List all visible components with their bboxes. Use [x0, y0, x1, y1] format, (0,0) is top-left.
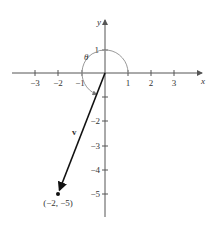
x-tick-label: 2 — [149, 78, 154, 88]
x-axis-label: x — [200, 76, 205, 86]
theta-label: θ — [84, 52, 89, 62]
x-tick-label: −2 — [53, 78, 63, 88]
x-tick-label: −3 — [30, 78, 40, 88]
y-axis-label: y — [96, 17, 101, 27]
endpoint-dot — [56, 192, 60, 196]
vector-label: v — [72, 127, 77, 137]
y-tick-label: −3 — [90, 141, 100, 151]
y-tick-label: −4 — [90, 165, 100, 175]
x-tick-label: 1 — [126, 78, 131, 88]
endpoint-label: (−2, −5) — [43, 198, 73, 208]
y-tick-label: 1 — [95, 45, 100, 55]
vector-diagram: −3 −2 −1 1 2 3 1 −2 −3 −4 −5 x y θ v (−2… — [0, 0, 217, 225]
y-tick-label: −2 — [90, 116, 100, 126]
x-tick-label: 3 — [172, 78, 177, 88]
y-tick-label: −5 — [90, 189, 100, 199]
